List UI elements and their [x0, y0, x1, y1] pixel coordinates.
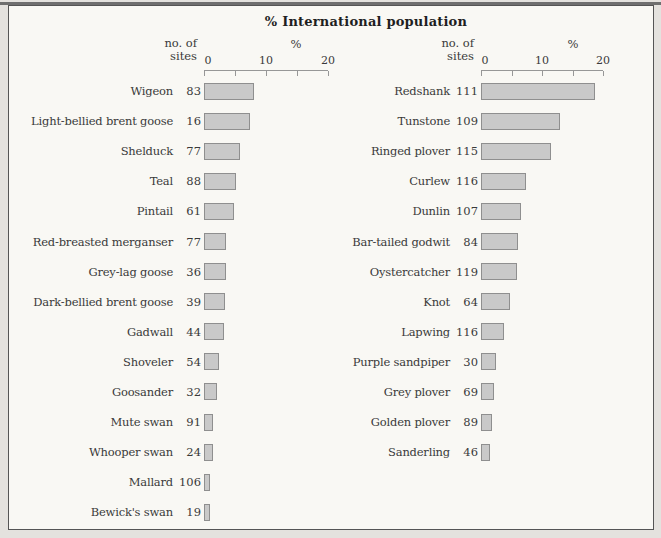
site-count: 88: [179, 174, 201, 188]
percent-bar: [204, 383, 217, 400]
bar-track: [481, 414, 603, 431]
percent-bar: [204, 233, 226, 250]
species-row: Tunstone109: [300, 106, 610, 136]
species-label: Golden plover: [300, 415, 450, 429]
site-count: 46: [456, 445, 478, 459]
panel-waders: no. of sites % 0 10 20 Redshank111Tunsto…: [300, 34, 610, 467]
sites-header-line2: sites: [300, 50, 474, 63]
site-count: 115: [456, 144, 478, 158]
species-label: Lapwing: [300, 325, 450, 339]
species-row: Knot64: [300, 287, 610, 317]
x-tick-label-0: 0: [482, 54, 489, 67]
percent-bar: [204, 444, 213, 461]
site-count: 44: [179, 325, 201, 339]
percent-bar: [481, 173, 526, 190]
species-row: Grey plover69: [300, 377, 610, 407]
percent-bar: [204, 173, 236, 190]
percent-bar: [481, 383, 494, 400]
percent-bar: [481, 293, 510, 310]
x-tick-label-10: 10: [259, 54, 273, 67]
site-count: 64: [456, 295, 478, 309]
site-count: 109: [456, 114, 478, 128]
axis-area-wildfowl: no. of sites % 0 10 20: [23, 34, 333, 76]
percent-bar: [481, 444, 490, 461]
bar-track: [481, 173, 603, 190]
species-label: Wigeon: [23, 84, 173, 98]
species-label: Mute swan: [23, 415, 173, 429]
chart-frame: % International population no. of sites …: [8, 5, 654, 530]
percent-bar: [481, 323, 504, 340]
species-label: Mallard: [23, 475, 173, 489]
bar-rows-wildfowl: Wigeon83Light-bellied brent goose16Sheld…: [23, 76, 333, 527]
species-label: Goosander: [23, 385, 173, 399]
site-count: 83: [179, 84, 201, 98]
species-row: Lapwing116: [300, 317, 610, 347]
species-label: Dark-bellied brent goose: [23, 295, 173, 309]
percent-bar: [204, 414, 213, 431]
site-count: 107: [456, 204, 478, 218]
bar-track: [481, 263, 603, 280]
species-row: Golden plover89: [300, 407, 610, 437]
axis-area-waders: no. of sites % 0 10 20: [300, 34, 610, 76]
site-count: 36: [179, 265, 201, 279]
species-label: Whooper swan: [23, 445, 173, 459]
sites-column-header: no. of sites: [23, 37, 197, 63]
percent-bar: [481, 414, 492, 431]
bar-track: [204, 504, 328, 521]
percent-axis-label: %: [568, 37, 579, 51]
percent-bar: [204, 323, 224, 340]
site-count: 106: [179, 475, 201, 489]
species-row: Wigeon83: [23, 76, 333, 106]
species-label: Curlew: [300, 174, 450, 188]
species-label: Redshank: [300, 84, 450, 98]
species-row: Shoveler54: [23, 347, 333, 377]
x-tick-label-0: 0: [205, 54, 212, 67]
percent-bar: [204, 203, 234, 220]
percent-bar: [204, 83, 254, 100]
site-count: 24: [179, 445, 201, 459]
site-count: 116: [456, 174, 478, 188]
site-count: 77: [179, 235, 201, 249]
species-label: Grey plover: [300, 385, 450, 399]
species-label: Tunstone: [300, 114, 450, 128]
species-row: Sanderling46: [300, 437, 610, 467]
species-label: Bewick's swan: [23, 505, 173, 519]
species-label: Purple sandpiper: [300, 355, 450, 369]
species-label: Red-breasted merganser: [23, 235, 173, 249]
species-label: Gadwall: [23, 325, 173, 339]
species-row: Whooper swan24: [23, 437, 333, 467]
species-row: Bar-tailed godwit84: [300, 226, 610, 256]
species-row: Goosander32: [23, 377, 333, 407]
site-count: 77: [179, 144, 201, 158]
species-label: Shelduck: [23, 144, 173, 158]
bar-track: [481, 323, 603, 340]
x-tick-label-10: 10: [535, 54, 549, 67]
site-count: 39: [179, 295, 201, 309]
species-row: Bewick's swan19: [23, 497, 333, 527]
percent-bar: [204, 474, 210, 491]
bar-track: [481, 203, 603, 220]
bar-track: [481, 83, 603, 100]
bar-track: [481, 293, 603, 310]
site-count: 19: [179, 505, 201, 519]
site-count: 32: [179, 385, 201, 399]
percent-bar: [481, 113, 560, 130]
species-row: Purple sandpiper30: [300, 347, 610, 377]
sites-column-header: no. of sites: [300, 37, 474, 63]
species-label: Teal: [23, 174, 173, 188]
species-row: Dark-bellied brent goose39: [23, 287, 333, 317]
species-label: Ringed plover: [300, 144, 450, 158]
species-label: Dunlin: [300, 204, 450, 218]
species-row: Mallard106: [23, 467, 333, 497]
species-row: Dunlin107: [300, 196, 610, 226]
species-row: Mute swan91: [23, 407, 333, 437]
species-row: Oystercatcher119: [300, 257, 610, 287]
x-axis: [481, 70, 603, 71]
percent-bar: [481, 83, 595, 100]
site-count: 119: [456, 265, 478, 279]
percent-bar: [481, 233, 518, 250]
percent-bar: [481, 353, 496, 370]
percent-bar: [204, 113, 250, 130]
bar-track: [481, 113, 603, 130]
site-count: 116: [456, 325, 478, 339]
